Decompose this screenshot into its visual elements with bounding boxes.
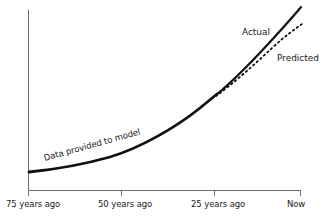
time-axis-tick-label-now: Now <box>287 199 305 209</box>
time-axis-tick-label-25-years-ago: 25 years ago <box>191 199 245 209</box>
series-label-predicted: Predicted <box>277 53 319 63</box>
time-axis-tick-label-50-years-ago: 50 years ago <box>98 199 152 209</box>
time-axis-tick-label-75-years-ago: 75 years ago <box>6 199 60 209</box>
series-line-actual <box>216 7 301 95</box>
series-label-actual: Actual <box>242 27 270 37</box>
chart-plot-area <box>0 0 323 219</box>
chart-container: Data provided to model Actual Predicted … <box>0 0 323 219</box>
